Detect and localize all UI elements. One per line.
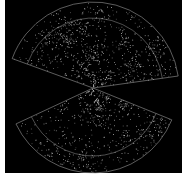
- north-wedge-inner-arc: [27, 18, 162, 78]
- south-wedge: [16, 88, 172, 173]
- north-wedge: [12, 2, 178, 88]
- redshift-wedge-diagram: [0, 0, 185, 183]
- south-wedge-outline: [16, 88, 172, 173]
